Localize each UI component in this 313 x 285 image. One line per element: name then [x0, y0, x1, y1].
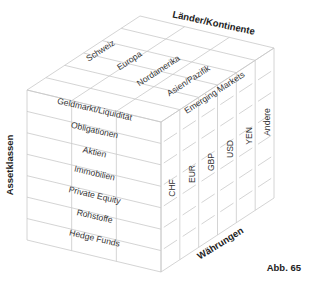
grid-line	[258, 157, 271, 166]
grid-line	[220, 117, 233, 126]
grid-line	[183, 121, 196, 130]
asset-class-labels: Geldmarkt/Liquidität Obligationen Aktien…	[56, 96, 133, 249]
grid-line	[201, 194, 214, 203]
figure-caption: Abb. 65	[267, 262, 301, 273]
grid-line	[183, 142, 196, 151]
axis-label-vertical: Assetklassen	[4, 134, 15, 195]
grid-line	[258, 178, 271, 187]
region-label: Europa	[115, 49, 144, 73]
grid-line	[183, 206, 196, 215]
asset-label: Geldmarkt/Liquidität	[56, 96, 133, 123]
grid-line	[220, 203, 233, 212]
asset-label: Rohstoffe	[76, 207, 114, 225]
asset-label: Obligationen	[70, 120, 119, 141]
currency-label: USD	[225, 140, 235, 158]
grid-line	[239, 84, 252, 93]
currency-label: YEN	[244, 127, 254, 145]
grid-line	[239, 148, 252, 157]
grid-line	[164, 133, 177, 142]
grid-line	[258, 93, 271, 102]
grid-line	[27, 240, 161, 272]
grid-line	[183, 185, 196, 194]
asset-label: Aktien	[82, 145, 108, 160]
grid-line	[164, 219, 177, 228]
grid-line	[183, 228, 196, 237]
currency-label: Andere	[262, 108, 272, 136]
asset-label: Private Equity	[68, 184, 123, 206]
axis-label-horizontal: Währungen	[195, 224, 245, 261]
grid-line	[220, 182, 233, 191]
grid-line	[201, 108, 214, 117]
currency-label: GBP	[206, 153, 216, 171]
axis-label-depth: Länder/Kontinente	[172, 8, 256, 36]
grid-line	[164, 154, 177, 163]
grid-line	[239, 169, 252, 178]
grid-line	[201, 173, 214, 182]
grid-line	[258, 136, 271, 145]
asset-label: Hedge Funds	[68, 227, 121, 248]
grid-line	[201, 130, 214, 139]
grid-line	[220, 96, 233, 105]
currency-labels: CHF EUR GBP USD YEN Andere	[167, 108, 272, 197]
asset-label: Immobilien	[73, 164, 116, 183]
asset-cube-diagram: Assetklassen Länder/Kontinente Währungen…	[0, 0, 313, 285]
currency-label: EUR	[187, 165, 197, 183]
currency-label: CHF	[167, 179, 177, 197]
grid-line	[239, 105, 252, 114]
grid-line	[201, 215, 214, 224]
grid-line	[220, 160, 233, 169]
grid-line	[239, 191, 252, 200]
grid-line	[164, 240, 177, 249]
grid-line	[258, 71, 271, 80]
grid-line	[164, 197, 177, 206]
